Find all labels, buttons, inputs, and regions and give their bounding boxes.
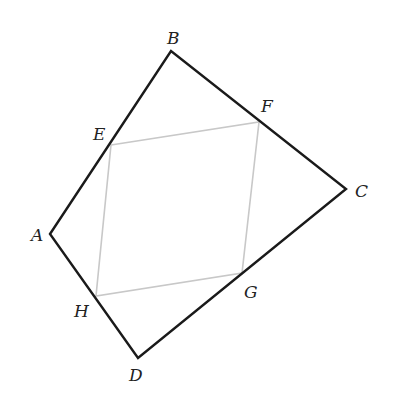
label-b: B [166, 28, 180, 48]
label-d: D [128, 365, 143, 385]
label-c: C [355, 181, 368, 201]
label-h: H [73, 301, 90, 321]
label-f: F [260, 96, 274, 116]
geometry-diagram: A B C D E F G H [0, 0, 395, 407]
label-g: G [244, 282, 258, 302]
inner-quadrilateral-efgh [96, 122, 259, 296]
label-e: E [92, 124, 106, 144]
label-a: A [29, 225, 43, 245]
outer-quadrilateral-abcd [50, 51, 346, 358]
